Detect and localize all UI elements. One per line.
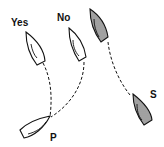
label-yes: Yes: [11, 17, 28, 28]
boat-no: [69, 28, 86, 61]
label-no: No: [57, 12, 70, 23]
boat-yes: [26, 32, 45, 65]
label-p: P: [50, 132, 57, 143]
path-yes: [43, 63, 51, 117]
path-s: [108, 42, 130, 95]
boat-p: [20, 116, 50, 138]
path-no: [51, 62, 84, 117]
label-s: S: [150, 89, 157, 100]
sailing-diagram: Yes No P S: [0, 0, 164, 147]
boat-hatched-top: [90, 9, 108, 42]
